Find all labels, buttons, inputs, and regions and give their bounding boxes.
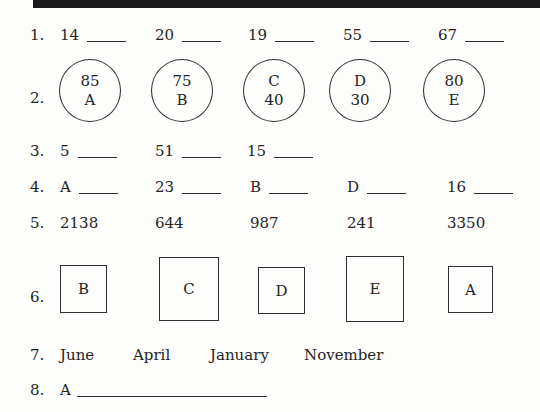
answer-blank-line <box>274 156 313 158</box>
answer-blank-line <box>370 40 409 42</box>
answer-item: 2138 <box>60 214 98 232</box>
number-circle: 85A <box>59 59 121 122</box>
question-row-2: 2. 85A 75B C40 D30 80E <box>0 59 540 123</box>
answer-item: 14 <box>60 26 126 44</box>
answer-blank-line <box>78 156 117 158</box>
square-letter: B <box>78 280 89 298</box>
letter-square: B <box>60 265 107 313</box>
question-row-5: 5. 2138 644 987 241 3350 <box>0 214 540 232</box>
answer-blank-line <box>367 192 406 194</box>
item-text: A <box>60 381 71 399</box>
fill-in-line <box>77 395 267 397</box>
answer-blank-line <box>182 192 221 194</box>
circle-line1: C <box>268 72 279 91</box>
letter-square: D <box>258 267 305 314</box>
answer-blank-line <box>275 40 314 42</box>
answer-blank-line <box>182 40 221 42</box>
item-text: B <box>250 178 261 196</box>
answer-item: 55 <box>343 26 409 44</box>
item-text: 16 <box>447 178 466 196</box>
answer-blank-line <box>474 192 513 194</box>
question-row-7: 7. June April January November <box>0 346 540 364</box>
item-text: 20 <box>155 26 174 44</box>
letter-square: E <box>346 256 404 322</box>
question-row-8: 8. A <box>0 381 540 399</box>
answer-blank-line <box>79 192 118 194</box>
circle-line1: D <box>354 72 366 91</box>
answer-item: B <box>250 178 308 196</box>
letter-square: C <box>159 257 219 321</box>
circle-line2: B <box>176 91 187 110</box>
answer-item: 51 <box>155 142 221 160</box>
circle-line2: A <box>85 91 96 110</box>
question-row-3: 3. 5 51 15 <box>0 142 540 160</box>
top-border-bar <box>33 0 540 8</box>
number-circle: D30 <box>329 59 391 122</box>
item-text: A <box>60 178 71 196</box>
square-letter: E <box>370 280 381 298</box>
item-text: 5 <box>60 142 70 160</box>
question-number: 8. <box>30 381 44 399</box>
circle-line1: 85 <box>80 72 99 91</box>
answer-item: A <box>60 381 267 399</box>
question-number: 7. <box>30 346 44 364</box>
answer-blank-line <box>87 40 126 42</box>
question-number: 2. <box>30 89 44 107</box>
circle-line2: 40 <box>264 91 283 110</box>
item-text: D <box>347 178 359 196</box>
circle-line1: 80 <box>444 72 463 91</box>
month-label: November <box>304 346 383 364</box>
answer-item: 5 <box>60 142 117 160</box>
circle-line2: 30 <box>350 91 369 110</box>
number-circle: 75B <box>151 59 213 122</box>
item-text: 55 <box>343 26 362 44</box>
answer-item: A <box>60 178 118 196</box>
item-text: 19 <box>248 26 267 44</box>
answer-item: 987 <box>250 214 279 232</box>
item-text: 23 <box>155 178 174 196</box>
month-label: January <box>210 346 269 364</box>
question-number: 6. <box>30 288 44 306</box>
item-text: 51 <box>155 142 174 160</box>
question-number: 4. <box>30 178 44 196</box>
item-text: 14 <box>60 26 79 44</box>
number-circle: 80E <box>423 59 485 122</box>
circle-line2: E <box>449 91 460 110</box>
answer-item: D <box>347 178 406 196</box>
question-number: 1. <box>30 26 44 44</box>
answer-item: 3350 <box>447 214 485 232</box>
circle-line1: 75 <box>172 72 191 91</box>
month-label: June <box>60 346 94 364</box>
item-text: 15 <box>247 142 266 160</box>
answer-blank-line <box>465 40 504 42</box>
answer-blank-line <box>269 192 308 194</box>
square-letter: A <box>465 281 476 299</box>
answer-item: 644 <box>155 214 184 232</box>
question-row-4: 4. A 23 B D 16 <box>0 178 540 196</box>
answer-blank-line <box>182 156 221 158</box>
question-row-1: 1. 14 20 19 55 67 <box>0 26 540 44</box>
worksheet-page: 1. 14 20 19 55 67 2. 85A 75B C40 D30 80E… <box>0 0 540 412</box>
letter-square: A <box>448 266 493 313</box>
question-row-6: 6. B C D E A <box>0 256 540 322</box>
square-letter: D <box>275 282 287 300</box>
number-circle: C40 <box>243 59 305 122</box>
answer-item: 241 <box>347 214 376 232</box>
answer-item: 16 <box>447 178 513 196</box>
month-label: April <box>133 346 170 364</box>
answer-item: 20 <box>155 26 221 44</box>
square-letter: C <box>183 280 194 298</box>
question-number: 5. <box>30 214 44 232</box>
answer-item: 67 <box>438 26 504 44</box>
answer-item: 19 <box>248 26 314 44</box>
question-number: 3. <box>30 142 44 160</box>
answer-item: 15 <box>247 142 313 160</box>
answer-item: 23 <box>155 178 221 196</box>
item-text: 67 <box>438 26 457 44</box>
